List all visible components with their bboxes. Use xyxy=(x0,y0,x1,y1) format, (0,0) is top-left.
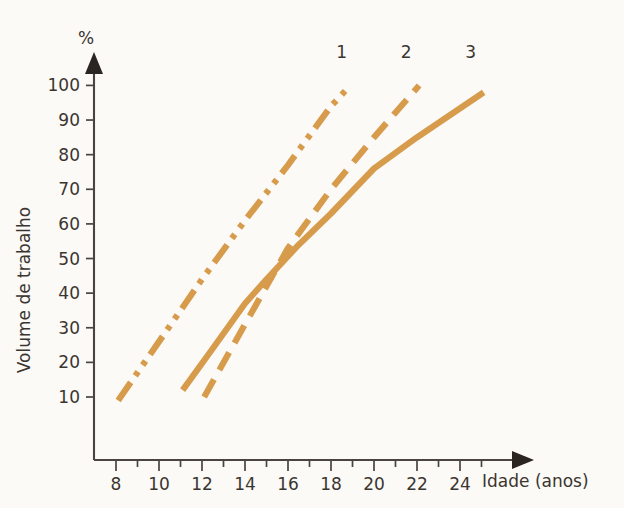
series-label-3: 3 xyxy=(465,42,476,62)
chart-canvas: % Volume de trabalho Idade (anos) 102030… xyxy=(0,0,624,508)
y-tick-label: 90 xyxy=(58,110,80,130)
series-label-group: 123 xyxy=(336,42,476,62)
y-tick-label: 100 xyxy=(48,75,80,95)
y-tick-group: 102030405060708090100 xyxy=(48,75,94,407)
y-axis-arrow-icon xyxy=(85,52,103,74)
x-tick-label: 18 xyxy=(320,474,342,494)
y-tick-label: 30 xyxy=(58,318,80,338)
y-axis-unit-label: % xyxy=(78,28,94,48)
x-axis-title: Idade (anos) xyxy=(482,471,589,491)
x-tick-label: 8 xyxy=(111,474,122,494)
x-tick-label: 14 xyxy=(234,474,256,494)
y-axis-title: Volume de trabalho xyxy=(14,207,34,373)
y-tick-label: 50 xyxy=(58,249,80,269)
y-tick-label: 80 xyxy=(58,145,80,165)
series-line-1 xyxy=(118,85,350,400)
x-tick-group: 81012141618202224 xyxy=(111,460,482,494)
y-tick-label: 10 xyxy=(58,387,80,407)
x-tick-label: 22 xyxy=(406,474,428,494)
x-tick-label: 20 xyxy=(363,474,385,494)
x-axis-arrow-icon xyxy=(512,451,534,469)
series-group xyxy=(118,85,484,400)
y-tick-label: 70 xyxy=(58,179,80,199)
x-tick-label: 24 xyxy=(449,474,471,494)
series-line-3 xyxy=(183,92,484,390)
series-label-1: 1 xyxy=(336,42,347,62)
chart-figure: % Volume de trabalho Idade (anos) 102030… xyxy=(0,0,624,508)
series-line-2 xyxy=(204,85,419,397)
y-tick-label: 40 xyxy=(58,283,80,303)
x-tick-label: 10 xyxy=(148,474,170,494)
x-tick-label: 16 xyxy=(277,474,299,494)
y-tick-label: 20 xyxy=(58,352,80,372)
series-label-2: 2 xyxy=(401,42,412,62)
y-tick-label: 60 xyxy=(58,214,80,234)
x-tick-label: 12 xyxy=(191,474,213,494)
